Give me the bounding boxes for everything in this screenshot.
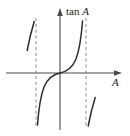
y-axis-label-variable: A: [82, 5, 89, 17]
y-axis-arrowhead: [57, 8, 63, 16]
tangent-left-partial-branch: [27, 22, 34, 51]
tangent-right-partial-branch: [88, 98, 95, 127]
y-axis: [57, 8, 63, 130]
plot-canvas: [0, 0, 130, 136]
x-axis-label: A: [112, 77, 119, 88]
y-axis-label-prefix: tan: [66, 5, 82, 17]
y-axis-label: tan A: [66, 6, 89, 17]
tangent-function-figure: tan A A: [0, 0, 130, 136]
x-axis-arrowhead: [114, 70, 122, 76]
